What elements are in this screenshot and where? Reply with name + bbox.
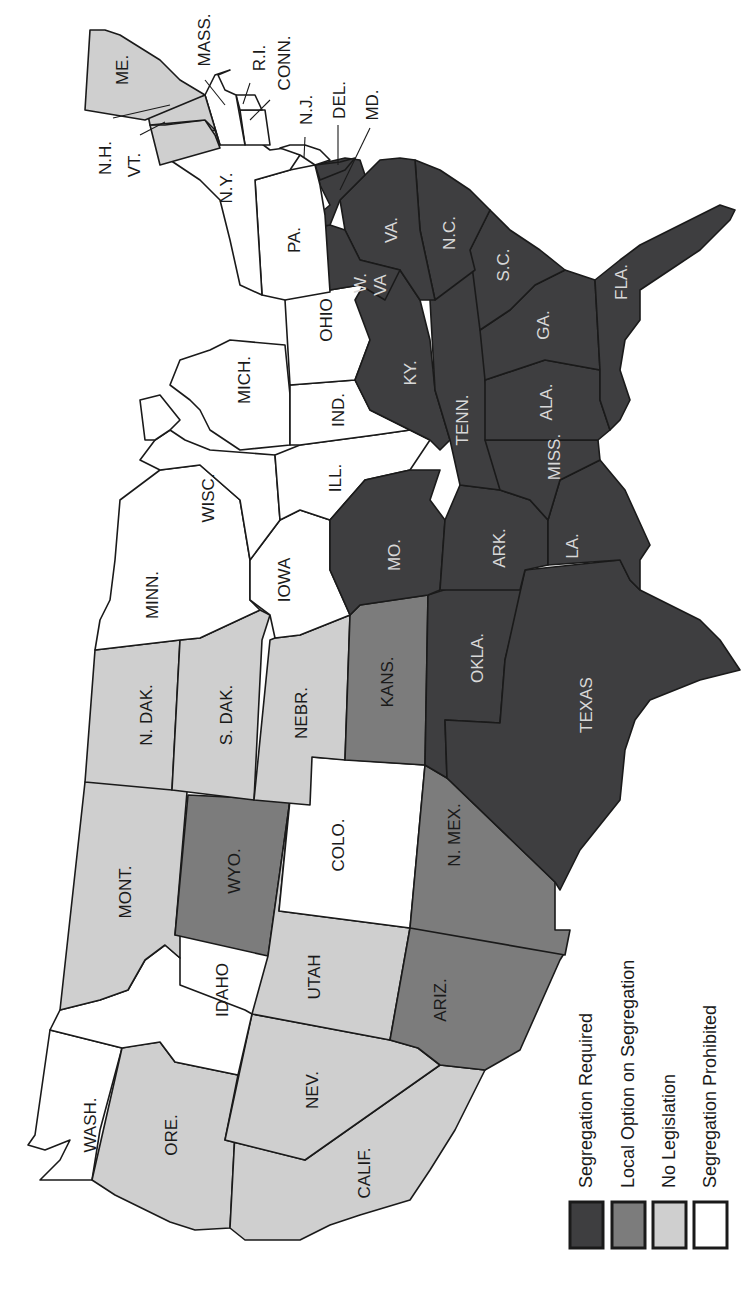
label-ohio: OHIO <box>317 298 336 341</box>
label-ind: IND. <box>329 393 348 427</box>
label-mich: MICH. <box>235 356 254 404</box>
label-okla: OKLA. <box>468 633 487 683</box>
label-idaho: IDAHO <box>213 963 232 1017</box>
legend: Segregation Required Local Option on Seg… <box>570 960 727 1248</box>
label-texas: TEXAS <box>577 677 596 733</box>
label-md: MD. <box>363 89 382 120</box>
label-pa: PA. <box>285 227 304 253</box>
label-mo: MO. <box>385 539 404 571</box>
label-nmex: N. MEX. <box>445 803 464 866</box>
label-nev: NEV. <box>303 1071 322 1109</box>
label-la: LA. <box>563 533 582 559</box>
label-calif: CALIF. <box>355 1147 374 1198</box>
state-rhode-island <box>236 95 262 110</box>
label-ill: ILL. <box>326 464 345 492</box>
label-ndak: N. DAK. <box>137 684 156 745</box>
label-kans: KANS. <box>378 656 397 707</box>
label-nh: N.H. <box>96 141 115 175</box>
label-vt: VT. <box>125 153 144 178</box>
legend-label-required: Segregation Required <box>576 1013 596 1188</box>
label-wyo: WYO. <box>225 848 244 893</box>
state-michigan <box>170 340 290 450</box>
label-mont: MONT. <box>116 866 135 919</box>
label-ala: ALA. <box>537 384 556 421</box>
us-segregation-map: WASH. ORE. CALIF. IDAHO NEV. MONT. WYO. … <box>0 0 751 1293</box>
label-nj: N.J. <box>297 95 316 125</box>
label-va: VA. <box>382 217 401 243</box>
label-sdak: S. DAK. <box>217 685 236 745</box>
label-miss: MISS. <box>545 434 564 480</box>
label-colo: COLO. <box>329 819 348 872</box>
label-ariz: ARIZ. <box>431 978 450 1021</box>
label-nebr: NEBR. <box>292 687 311 739</box>
label-nc: N.C. <box>440 216 459 250</box>
label-wash: WASH. <box>81 1097 100 1152</box>
label-ark: ARK. <box>490 528 509 568</box>
label-conn: CONN. <box>275 36 294 91</box>
label-ny: N.Y. <box>217 173 236 204</box>
label-wva-line2: VA <box>371 274 390 296</box>
state-north-dakota <box>85 640 180 790</box>
state-florida <box>595 205 735 430</box>
label-wva-line1: W. <box>351 273 370 293</box>
legend-swatch-local <box>612 1202 645 1248</box>
label-tenn: TENN. <box>453 395 472 446</box>
legend-label-prohibited: Segregation Prohibited <box>700 1005 720 1188</box>
legend-swatch-prohibited <box>694 1202 727 1248</box>
legend-swatch-none <box>653 1202 686 1248</box>
label-wisc: WISC. <box>199 473 218 522</box>
label-fla: FLA. <box>612 264 631 300</box>
legend-swatch-required <box>570 1202 603 1248</box>
label-del: DEL. <box>330 81 349 119</box>
label-ga: GA. <box>534 310 553 339</box>
legend-label-none: No Legislation <box>659 1074 679 1188</box>
label-ky: KY. <box>401 360 420 385</box>
legend-label-local: Local Option on Segregation <box>618 960 638 1188</box>
label-sc: S.C. <box>494 248 513 281</box>
label-ore: ORE. <box>162 1114 181 1156</box>
label-minn: MINN. <box>143 571 162 619</box>
label-utah: UTAH <box>305 954 324 999</box>
label-me: ME. <box>113 55 132 85</box>
label-mass: MASS. <box>195 14 214 67</box>
label-iowa: IOWA <box>275 557 294 602</box>
label-ri: R.I. <box>250 45 269 71</box>
